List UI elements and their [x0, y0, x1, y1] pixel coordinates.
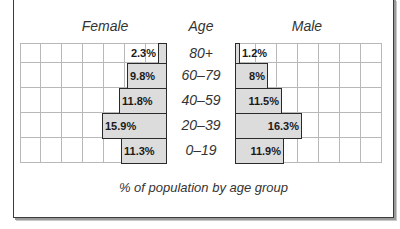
grid-cell [62, 88, 83, 113]
grid-cell [298, 43, 319, 63]
grid-cell [20, 113, 41, 138]
grid-cell [361, 138, 382, 163]
female-header: Female [60, 18, 150, 34]
age-header: Age [170, 18, 232, 34]
age-group-label: 20–39 [170, 113, 232, 138]
grid-cell [83, 88, 104, 113]
grid-cell [319, 88, 340, 113]
grid-cell [340, 113, 361, 138]
grid-cell [319, 43, 340, 63]
grid-cell [319, 138, 340, 163]
male-value-label: 11.5% [248, 91, 279, 111]
age-group-label: 80+ [170, 41, 232, 66]
age-group-label: 60–79 [170, 63, 232, 88]
grid-cell [361, 63, 382, 88]
grid-cell [62, 43, 83, 63]
male-header: Male [262, 18, 352, 34]
grid-cell [319, 113, 340, 138]
grid-cell [361, 113, 382, 138]
grid-cell [361, 43, 382, 63]
grid-cell [340, 138, 361, 163]
female-bar [158, 43, 167, 64]
grid-cell [83, 43, 104, 63]
grid-cell [83, 63, 104, 88]
female-value-label: 15.9% [105, 116, 136, 136]
chart-caption: % of population by age group [13, 180, 394, 195]
grid-cell [83, 138, 104, 163]
grid-cell [20, 138, 41, 163]
male-value-label: 11.9% [250, 141, 281, 161]
grid-cell [41, 43, 62, 63]
grid-cell [298, 138, 319, 163]
grid-cell [41, 63, 62, 88]
grid-cell [20, 43, 41, 63]
female-value-label: 11.3% [124, 141, 155, 161]
male-value-label: 8% [249, 66, 265, 86]
grid-cell [104, 43, 125, 63]
grid-cell [20, 88, 41, 113]
female-value-label: 9.8% [130, 66, 155, 86]
grid-cell [277, 43, 298, 63]
male-bar [235, 43, 240, 64]
grid-cell [62, 138, 83, 163]
grid-cell [298, 88, 319, 113]
grid-cell [41, 138, 62, 163]
age-group-label: 40–59 [170, 88, 232, 113]
grid-cell [62, 63, 83, 88]
grid-cell [83, 113, 104, 138]
grid-cell [41, 88, 62, 113]
grid-cell [20, 63, 41, 88]
male-value-label: 16.3% [268, 116, 299, 136]
female-value-label: 2.3% [131, 43, 156, 63]
age-group-label: 0–19 [170, 138, 232, 163]
female-value-label: 11.8% [122, 91, 153, 111]
grid-cell [340, 63, 361, 88]
grid-cell [361, 88, 382, 113]
grid-cell [277, 63, 298, 88]
grid-cell [319, 63, 340, 88]
grid-cell [62, 113, 83, 138]
grid-cell [41, 113, 62, 138]
grid-cell [104, 63, 125, 88]
grid-cell [298, 63, 319, 88]
male-value-label: 1.2% [242, 43, 267, 63]
grid-cell [340, 43, 361, 63]
grid-cell [340, 88, 361, 113]
